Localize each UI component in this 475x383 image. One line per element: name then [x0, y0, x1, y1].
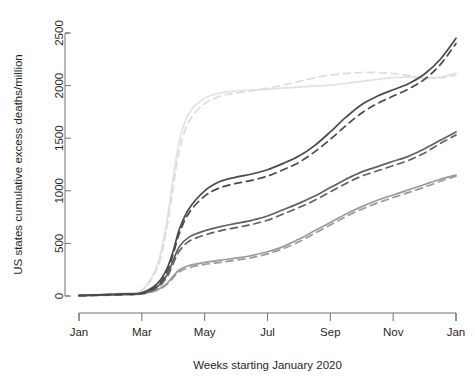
x-tick-label: May [194, 326, 216, 338]
y-tick-label: 500 [53, 234, 65, 253]
x-tick-label: Mar [132, 326, 152, 338]
chart-line-group-4-dashed [79, 72, 456, 295]
line-chart-svg: 05001000150020002500JanMarMayJulSepNovJa… [0, 0, 475, 383]
chart-series-group [79, 38, 456, 295]
x-tick-label: Sep [320, 326, 340, 338]
x-tick-label: Jan [70, 326, 89, 338]
chart-line-group-3-solid [79, 175, 456, 296]
y-axis-title: US states cumulative excess deaths/milli… [12, 54, 24, 275]
y-tick-label: 0 [53, 293, 65, 299]
chart-line-group-4-solid [79, 73, 456, 295]
y-tick-label: 1000 [53, 178, 65, 204]
y-tick-label: 2500 [53, 20, 65, 46]
chart-figure: · · · 05001000150020002500JanMarMayJulSe… [0, 0, 475, 383]
y-tick-label: 2000 [53, 73, 65, 99]
clipped-header-text: · · · [6, 0, 22, 3]
x-tick-label: Jan [447, 326, 466, 338]
x-tick-label: Nov [383, 326, 404, 338]
y-tick-label: 1500 [53, 125, 65, 151]
x-tick-label: Jul [260, 326, 275, 338]
x-axis-title: Weeks starting January 2020 [193, 359, 342, 371]
chart-line-group-3-dashed [79, 176, 456, 296]
chart-axes [65, 33, 456, 321]
chart-line-group-2-solid [79, 132, 456, 296]
